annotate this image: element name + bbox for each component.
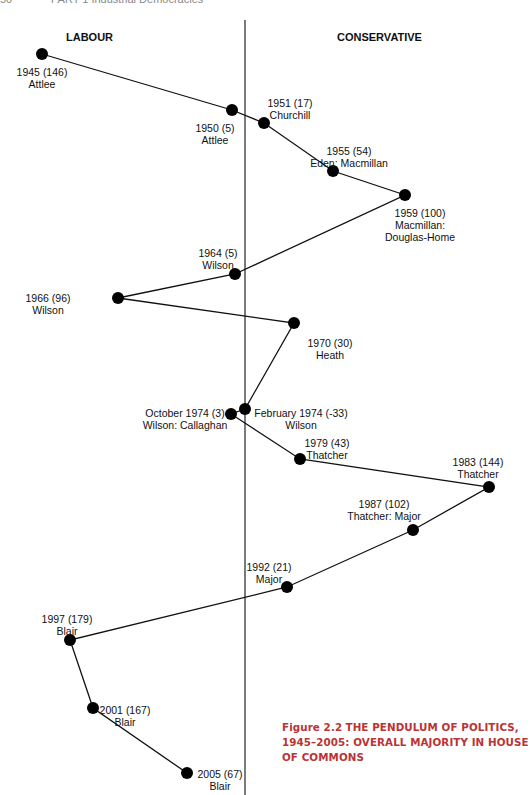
data-label-line: 1966 (96): [0, 292, 96, 304]
data-label: 1992 (21)Major: [247, 561, 292, 585]
data-label-line: 1987 (102): [347, 498, 421, 510]
data-label: October 1974 (3)Wilson: Callaghan: [143, 407, 228, 431]
data-label-line: Blair: [100, 716, 151, 728]
data-point-1959: [399, 189, 411, 201]
data-point-2005: [181, 767, 193, 779]
data-label-line: 2005 (67): [198, 768, 243, 780]
data-label-line: 1983 (144): [453, 456, 504, 468]
data-label: 1966 (96)Wilson: [0, 292, 96, 316]
data-point-february-1974: [239, 403, 251, 415]
data-label-line: 1951 (17): [268, 97, 313, 109]
data-point-1987: [407, 524, 419, 536]
data-label-line: Wilson: Callaghan: [143, 419, 228, 431]
data-label: 1979 (43)Thatcher: [305, 437, 350, 461]
data-point-1983: [483, 481, 495, 493]
data-label-line: 2001 (167): [100, 704, 151, 716]
data-label-line: Thatcher: Major: [347, 510, 421, 522]
data-label: 1997 (179)Blair: [42, 613, 93, 637]
data-point-1970: [288, 317, 300, 329]
data-label-line: 1992 (21): [247, 561, 292, 573]
figure-label: Figure 2.2: [282, 721, 342, 733]
pendulum-chart: [0, 0, 532, 795]
data-label-line: Thatcher: [305, 449, 350, 461]
data-label-line: Macmillan:: [385, 219, 455, 231]
data-label: 1945 (146)Attlee: [17, 66, 68, 90]
data-label-line: Major: [247, 573, 292, 585]
data-label-line: 1945 (146): [17, 66, 68, 78]
data-point-1966: [112, 292, 124, 304]
data-label-line: 1964 (5): [198, 247, 237, 259]
data-label: 2005 (67)Blair: [198, 768, 243, 792]
data-label-line: Thatcher: [453, 468, 504, 480]
data-label-line: Wilson: [0, 304, 96, 316]
data-label: 1955 (54)Eden: Macmillan: [310, 145, 388, 169]
data-label-line: Churchill: [268, 109, 313, 121]
data-label-line: Heath: [308, 349, 353, 361]
data-label-line: Wilson: [198, 259, 237, 271]
data-label: 1950 (5)Attlee: [195, 122, 234, 146]
data-label-line: Attlee: [17, 78, 68, 90]
data-label-line: Eden: Macmillan: [310, 157, 388, 169]
data-label-line: 1979 (43): [305, 437, 350, 449]
data-label-line: 1970 (30): [308, 337, 353, 349]
data-label: 1970 (30)Heath: [308, 337, 353, 361]
data-label: February 1974 (-33)Wilson: [254, 407, 347, 431]
data-label-line: 1997 (179): [42, 613, 93, 625]
data-label-line: 1950 (5): [195, 122, 234, 134]
data-label-line: Blair: [42, 625, 93, 637]
data-point-1945: [36, 48, 48, 60]
data-label: 1959 (100)Macmillan:Douglas-Home: [385, 207, 455, 243]
data-label: 1951 (17)Churchill: [268, 97, 313, 121]
data-point-1950: [226, 104, 238, 116]
data-label: 2001 (167)Blair: [100, 704, 151, 728]
data-label-line: Attlee: [195, 134, 234, 146]
data-label-line: Blair: [198, 780, 243, 792]
data-label-line: October 1974 (3): [143, 407, 228, 419]
figure-caption: Figure 2.2 THE PENDULUM OF POLITICS, 194…: [282, 720, 532, 765]
data-label: 1983 (144)Thatcher: [453, 456, 504, 480]
data-label-line: February 1974 (-33): [254, 407, 347, 419]
data-label-line: Douglas-Home: [385, 231, 455, 243]
data-label-line: 1959 (100): [385, 207, 455, 219]
data-point-2001: [87, 702, 99, 714]
data-label: 1964 (5)Wilson: [198, 247, 237, 271]
data-label-line: 1955 (54): [310, 145, 388, 157]
data-label: 1987 (102)Thatcher: Major: [347, 498, 421, 522]
data-label-line: Wilson: [254, 419, 347, 431]
